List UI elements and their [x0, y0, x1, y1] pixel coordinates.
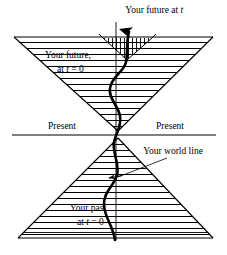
label-future-suffix: = 0 [69, 64, 84, 74]
label-future-at-t0-line1: Your future, [45, 50, 91, 60]
lightcone-figure: Your future at t Your future, at t = 0 P… [0, 0, 227, 255]
label-past-suffix: = 0 [89, 217, 104, 227]
label-present-left: Present [48, 121, 76, 131]
label-past-prefix: at [77, 217, 86, 227]
label-future-at-t-italic: t [181, 5, 184, 15]
label-future-prefix: at [57, 64, 66, 74]
label-world-line: Your world line [143, 146, 203, 156]
label-future-at-t0-line2: at t = 0 [36, 64, 101, 74]
label-present-right: Present [156, 121, 184, 131]
lightcone-svg: Your future at t Your future, at t = 0 P… [0, 0, 227, 255]
label-future-at-t: Your future at t [104, 5, 200, 15]
label-future-at-t-text: Your future at [125, 5, 180, 15]
label-past-line2: at t = 0 [56, 217, 121, 227]
svg-text:Your future at t: Your future at t [104, 5, 200, 15]
label-past-line1: Your past [70, 203, 107, 213]
